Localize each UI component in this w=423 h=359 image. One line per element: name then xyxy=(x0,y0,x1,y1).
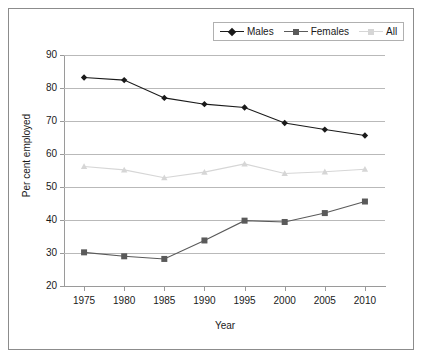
legend-item-all: All xyxy=(359,27,397,37)
chart-container: Males Females All 9080706050403020 19751… xyxy=(0,0,423,359)
legend-swatch-all xyxy=(359,27,383,37)
series-line-males xyxy=(84,77,365,135)
data-point-females-1980 xyxy=(121,253,127,259)
legend-swatch-females xyxy=(284,27,308,37)
data-point-males-2000 xyxy=(281,120,287,126)
data-point-males-1995 xyxy=(241,104,247,110)
data-point-females-1990 xyxy=(201,237,207,243)
data-point-females-1985 xyxy=(161,256,167,262)
x-tick-mark xyxy=(124,287,125,291)
legend-label-males: Males xyxy=(247,27,274,37)
data-point-females-1975 xyxy=(81,249,87,255)
data-point-females-2005 xyxy=(322,210,328,216)
legend-label-females: Females xyxy=(311,27,349,37)
y-tick-label: 50 xyxy=(31,182,57,192)
x-tick-mark xyxy=(164,287,165,291)
legend-label-all: All xyxy=(386,27,397,37)
data-point-females-2000 xyxy=(282,219,288,225)
y-tick-label: 40 xyxy=(31,215,57,225)
data-point-all-1995 xyxy=(241,161,247,167)
data-point-males-1975 xyxy=(81,74,87,80)
triangle-marker-icon xyxy=(368,29,374,35)
data-point-females-2010 xyxy=(362,199,368,205)
x-tick-label: 2000 xyxy=(265,296,305,306)
x-tick-label: 1995 xyxy=(225,296,265,306)
x-axis-title: Year xyxy=(64,320,386,331)
square-marker-icon xyxy=(293,29,299,35)
x-tick-label: 1975 xyxy=(64,296,104,306)
legend-item-females: Females xyxy=(284,27,349,37)
x-tick-label: 1990 xyxy=(184,296,224,306)
diamond-marker-icon xyxy=(228,27,236,35)
x-tick-mark xyxy=(204,287,205,291)
y-tick-label: 60 xyxy=(31,149,57,159)
y-tick-label: 80 xyxy=(31,83,57,93)
chart-legend: Males Females All xyxy=(213,22,404,41)
data-point-males-1980 xyxy=(121,77,127,83)
x-tick-mark xyxy=(245,287,246,291)
y-tick-label: 70 xyxy=(31,116,57,126)
plot-area xyxy=(64,55,385,286)
y-tick-label: 30 xyxy=(31,248,57,258)
x-axis-line xyxy=(64,286,386,287)
data-point-males-2005 xyxy=(322,126,328,132)
x-tick-label: 1985 xyxy=(144,296,184,306)
x-tick-label: 2010 xyxy=(345,296,385,306)
x-tick-label: 2005 xyxy=(305,296,345,306)
x-tick-label: 1980 xyxy=(104,296,144,306)
x-tick-mark xyxy=(84,287,85,291)
data-point-females-1995 xyxy=(242,218,248,224)
series-layer xyxy=(64,55,385,286)
y-tick-mark xyxy=(60,286,64,287)
data-point-males-1985 xyxy=(161,95,167,101)
data-point-males-2010 xyxy=(362,132,368,138)
y-tick-label: 20 xyxy=(31,281,57,291)
x-tick-mark xyxy=(365,287,366,291)
legend-item-males: Males xyxy=(220,27,274,37)
y-axis-title: Per cent employed xyxy=(21,86,32,226)
x-tick-mark xyxy=(285,287,286,291)
x-tick-mark xyxy=(325,287,326,291)
legend-swatch-males xyxy=(220,27,244,37)
y-tick-label: 90 xyxy=(31,50,57,60)
data-point-males-1990 xyxy=(201,101,207,107)
